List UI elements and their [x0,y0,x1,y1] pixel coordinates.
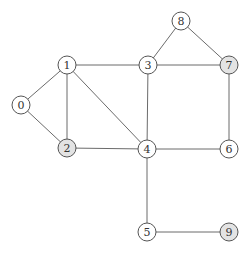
edges-layer [21,21,229,232]
edge-8-7 [181,21,229,65]
edge-3-4 [147,65,148,149]
node-2: 2 [58,139,76,157]
node-6: 6 [220,140,238,158]
node-label: 7 [226,59,233,72]
node-label: 6 [226,143,233,156]
node-3: 3 [139,56,157,74]
node-0: 0 [12,96,30,114]
edge-1-4 [67,65,147,149]
node-4: 4 [138,140,156,158]
node-8: 8 [172,12,190,30]
node-label: 4 [144,143,151,156]
node-label: 5 [144,226,151,239]
node-label: 9 [226,226,233,239]
node-label: 1 [64,59,71,72]
node-1: 1 [58,56,76,74]
node-7: 7 [220,56,238,74]
node-label: 8 [178,15,185,28]
node-label: 2 [64,142,71,155]
edge-2-4 [67,148,147,149]
node-label: 0 [18,99,25,112]
graph-canvas: 0123456789 [0,0,251,253]
node-9: 9 [220,223,238,241]
node-5: 5 [138,223,156,241]
node-label: 3 [145,59,152,72]
